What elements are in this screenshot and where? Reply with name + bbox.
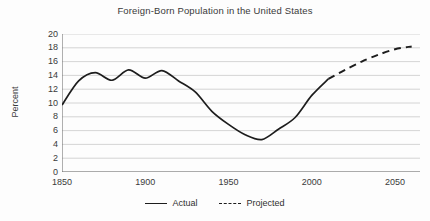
x-axis-tick-label: 1950 bbox=[218, 177, 238, 187]
data-series-projected bbox=[328, 46, 411, 78]
legend-label: Projected bbox=[246, 198, 284, 208]
y-axis-tick-label: 14 bbox=[38, 71, 58, 80]
y-axis-tick-labels: 02468101214161820 bbox=[30, 34, 58, 172]
y-axis-tick-label: 12 bbox=[38, 85, 58, 94]
x-axis-tick-label: 1900 bbox=[135, 177, 155, 187]
chart-title: Foreign-Born Population in the United St… bbox=[0, 5, 430, 16]
y-axis-tick-label: 6 bbox=[38, 126, 58, 135]
y-axis-tick-label: 8 bbox=[38, 112, 58, 121]
data-series-actual bbox=[62, 70, 328, 140]
x-axis-tick-label: 2050 bbox=[385, 177, 405, 187]
legend-item-projected[interactable]: Projected bbox=[219, 198, 284, 208]
y-axis-tick-label: 20 bbox=[38, 30, 58, 39]
plot-area bbox=[62, 34, 420, 172]
y-axis-tick-label: 16 bbox=[38, 57, 58, 66]
x-axis-tick-label: 1850 bbox=[52, 177, 72, 187]
y-axis-tick-label: 18 bbox=[38, 43, 58, 52]
y-axis-tick-label: 10 bbox=[38, 99, 58, 108]
x-axis-tick-label: 2000 bbox=[302, 177, 322, 187]
y-axis-tick-label: 4 bbox=[38, 140, 58, 149]
chart-figure: Foreign-Born Population in the United St… bbox=[0, 0, 430, 221]
legend-swatch-solid-icon bbox=[145, 203, 167, 204]
y-axis-label: Percent bbox=[8, 62, 22, 142]
chart-legend: ActualProjected bbox=[0, 198, 430, 208]
legend-label: Actual bbox=[172, 198, 197, 208]
chart-canvas bbox=[62, 34, 420, 172]
y-axis-label-text: Percent bbox=[10, 86, 20, 117]
legend-item-actual[interactable]: Actual bbox=[145, 198, 197, 208]
legend-swatch-dashed-icon bbox=[219, 203, 241, 204]
y-axis-tick-label: 2 bbox=[38, 154, 58, 163]
y-axis-tick-label: 0 bbox=[38, 168, 58, 177]
x-axis-tick-labels: 18501900195020002050 bbox=[0, 177, 430, 191]
